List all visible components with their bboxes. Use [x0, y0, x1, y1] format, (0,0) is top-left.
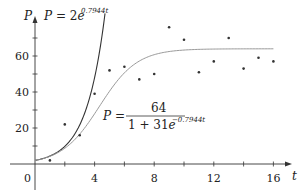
x-tick-label: 16 — [266, 172, 280, 185]
y-tick-label: 20 — [15, 122, 29, 135]
data-points — [49, 26, 275, 162]
x-tick-label: 4 — [91, 172, 98, 185]
y-axis-arrow-icon — [33, 16, 38, 23]
y-tick-label: 60 — [15, 50, 29, 63]
svg-text:P =: P = — [102, 109, 125, 123]
y-ticks: 204060 — [15, 38, 38, 146]
x-tick-label: 8 — [151, 172, 158, 185]
logistic-exponent: −0.7944t — [172, 116, 205, 124]
data-point — [49, 159, 52, 162]
logistic-equation-label: P = 64 1 + 31e −0.7944t — [102, 101, 205, 132]
x-ticks: 481216 — [65, 162, 281, 186]
data-point — [183, 39, 186, 42]
svg-text:P = 2e: P = 2e — [43, 9, 85, 23]
chart: 481216 204060 P t 0 P = 2e 0.7944t P = 6… — [0, 0, 300, 196]
y-tick-label: 40 — [15, 86, 29, 99]
origin-label: 0 — [24, 172, 31, 185]
data-point — [198, 71, 201, 74]
data-point — [64, 123, 67, 126]
data-point — [272, 60, 275, 63]
data-point — [227, 37, 230, 40]
exponential-equation-label: P = 2e 0.7944t — [43, 7, 108, 23]
svg-text:1 + 31e: 1 + 31e — [128, 118, 176, 132]
data-point — [123, 66, 126, 69]
data-point — [242, 67, 245, 70]
data-point — [257, 57, 260, 60]
y-axis-label: P — [23, 9, 33, 23]
data-point — [168, 26, 171, 29]
data-point — [213, 60, 216, 63]
data-point — [153, 73, 156, 76]
data-point — [108, 69, 111, 72]
exponential-exponent: 0.7944t — [81, 7, 108, 15]
exponential-curve — [35, 13, 105, 160]
logistic-numerator: 64 — [151, 101, 167, 115]
data-point — [78, 134, 81, 137]
x-tick-label: 12 — [207, 172, 221, 185]
x-axis-label: t — [292, 169, 297, 183]
data-point — [93, 93, 96, 96]
data-point — [138, 78, 141, 81]
x-axis-arrow-icon — [285, 162, 292, 167]
